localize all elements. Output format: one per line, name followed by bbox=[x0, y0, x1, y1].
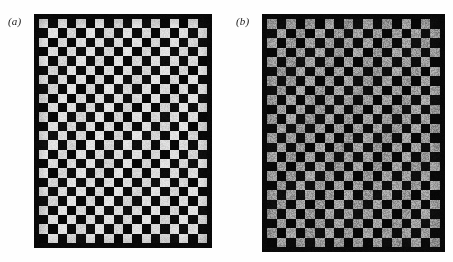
checker-cell bbox=[402, 228, 412, 238]
checker-cell bbox=[123, 122, 132, 131]
checker-cell bbox=[296, 57, 306, 67]
checker-cell bbox=[76, 131, 85, 140]
checker-cell bbox=[114, 159, 123, 168]
checker-cell bbox=[58, 140, 67, 149]
checker-cell bbox=[363, 162, 373, 172]
checker-cell bbox=[325, 171, 335, 181]
checker-cell bbox=[160, 75, 169, 84]
checker-cell bbox=[179, 28, 188, 37]
checker-cell bbox=[334, 133, 344, 143]
checker-cell bbox=[95, 178, 104, 187]
checker-cell bbox=[48, 206, 57, 215]
checker-cell bbox=[430, 95, 440, 105]
panel-a-grid bbox=[39, 19, 207, 243]
panel-b-grid bbox=[267, 19, 440, 247]
checker-cell bbox=[188, 47, 197, 56]
checker-cell bbox=[277, 48, 287, 58]
checker-cell bbox=[334, 209, 344, 219]
checker-cell bbox=[382, 200, 392, 210]
checker-cell bbox=[344, 114, 354, 124]
checker-cell bbox=[58, 94, 67, 103]
checker-cell bbox=[334, 219, 344, 229]
checker-cell bbox=[267, 228, 277, 238]
checker-cell bbox=[86, 38, 95, 47]
checker-cell bbox=[373, 114, 383, 124]
checker-cell bbox=[188, 178, 197, 187]
checker-cell bbox=[315, 57, 325, 67]
checker-cell bbox=[305, 114, 315, 124]
checker-cell bbox=[315, 114, 325, 124]
checker-cell bbox=[402, 162, 412, 172]
checker-cell bbox=[48, 196, 57, 205]
checker-cell bbox=[198, 224, 207, 233]
checker-cell bbox=[421, 48, 431, 58]
checker-cell bbox=[344, 76, 354, 86]
checker-cell bbox=[132, 56, 141, 65]
checker-cell bbox=[188, 140, 197, 149]
checker-cell bbox=[123, 103, 132, 112]
checker-cell bbox=[198, 122, 207, 131]
checker-cell bbox=[430, 76, 440, 86]
checker-cell bbox=[277, 67, 287, 77]
checker-cell bbox=[421, 171, 431, 181]
checker-cell bbox=[48, 178, 57, 187]
checker-cell bbox=[160, 122, 169, 131]
checker-cell bbox=[353, 86, 363, 96]
checker-cell bbox=[430, 133, 440, 143]
checker-cell bbox=[95, 215, 104, 224]
checker-cell bbox=[188, 94, 197, 103]
checker-cell bbox=[95, 103, 104, 112]
checker-cell bbox=[353, 200, 363, 210]
checker-cell bbox=[179, 47, 188, 56]
checker-cell bbox=[67, 168, 76, 177]
checker-cell bbox=[142, 168, 151, 177]
checker-cell bbox=[315, 200, 325, 210]
checker-cell bbox=[39, 66, 48, 75]
checker-cell bbox=[411, 19, 421, 29]
checker-cell bbox=[305, 143, 315, 153]
checker-cell bbox=[411, 57, 421, 67]
checker-cell bbox=[402, 124, 412, 134]
checker-cell bbox=[411, 67, 421, 77]
checker-cell bbox=[305, 238, 315, 248]
checker-cell bbox=[392, 124, 402, 134]
checker-cell bbox=[132, 196, 141, 205]
checker-cell bbox=[373, 48, 383, 58]
checker-cell bbox=[39, 75, 48, 84]
checker-cell bbox=[296, 48, 306, 58]
checker-cell bbox=[76, 56, 85, 65]
checker-cell bbox=[170, 140, 179, 149]
checker-cell bbox=[344, 200, 354, 210]
checker-cell bbox=[198, 94, 207, 103]
checker-cell bbox=[160, 159, 169, 168]
checker-cell bbox=[123, 75, 132, 84]
checker-cell bbox=[325, 95, 335, 105]
checker-cell bbox=[402, 19, 412, 29]
checker-cell bbox=[267, 171, 277, 181]
checker-cell bbox=[114, 224, 123, 233]
checker-cell bbox=[114, 150, 123, 159]
checker-cell bbox=[123, 112, 132, 121]
checker-cell bbox=[160, 84, 169, 93]
checker-cell bbox=[277, 143, 287, 153]
checker-cell bbox=[392, 114, 402, 124]
checker-cell bbox=[402, 133, 412, 143]
checker-cell bbox=[58, 112, 67, 121]
checker-cell bbox=[267, 29, 277, 39]
checker-cell bbox=[277, 105, 287, 115]
checker-cell bbox=[58, 196, 67, 205]
checker-cell bbox=[286, 200, 296, 210]
checker-cell bbox=[142, 19, 151, 28]
checker-cell bbox=[160, 112, 169, 121]
checker-cell bbox=[104, 103, 113, 112]
checker-cell bbox=[430, 143, 440, 153]
checker-cell bbox=[382, 105, 392, 115]
checker-cell bbox=[198, 47, 207, 56]
checker-cell bbox=[123, 196, 132, 205]
checker-cell bbox=[411, 181, 421, 191]
checker-cell bbox=[334, 124, 344, 134]
checker-cell bbox=[86, 131, 95, 140]
checker-cell bbox=[344, 171, 354, 181]
checker-cell bbox=[170, 84, 179, 93]
checker-cell bbox=[325, 209, 335, 219]
